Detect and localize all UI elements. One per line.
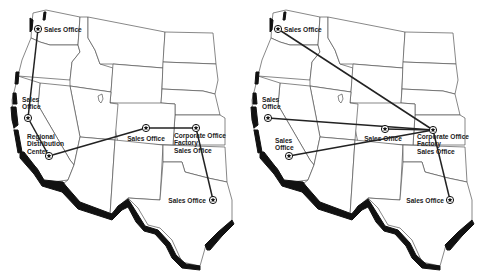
location-label: Office	[275, 144, 294, 151]
star-marker-icon	[34, 25, 41, 32]
location-label: Sales Office	[168, 197, 206, 204]
map-left-regional-distribution: Sales OfficeSalesOfficeRegionalDistribut…	[11, 10, 234, 270]
star-marker-icon	[264, 114, 271, 121]
location-label: Sales Office	[417, 148, 455, 155]
star-marker-icon	[285, 152, 292, 159]
location-label: Office	[262, 103, 281, 110]
location-label: Sales Office	[127, 135, 165, 142]
network-maps: Sales OfficeSalesOfficeRegionalDistribut…	[0, 0, 479, 274]
location-label: Sales Office	[284, 26, 322, 33]
star-marker-icon	[142, 124, 149, 131]
star-marker-icon	[381, 125, 388, 132]
star-marker-icon	[209, 196, 216, 203]
star-marker-icon	[24, 114, 31, 121]
location-label: Sales	[262, 96, 280, 103]
star-marker-icon	[446, 196, 453, 203]
star-marker-icon	[274, 25, 281, 32]
location-label: Sales Office	[406, 197, 444, 204]
star-marker-icon	[192, 124, 199, 131]
location-label: Center	[27, 148, 48, 155]
diagram-container: Sales OfficeSalesOfficeRegionalDistribut…	[0, 0, 479, 274]
map-right-direct-shipping: Sales OfficeSalesOfficeSalesOfficeSales …	[251, 10, 474, 270]
location-label: Office	[22, 103, 41, 110]
location-label: Sales Office	[44, 26, 82, 33]
location-label: Sales	[275, 137, 293, 144]
location-label: Sales	[22, 96, 40, 103]
location-label: Sales Office	[174, 147, 212, 154]
location-label: Distribution	[27, 140, 64, 147]
location-label: Sales Office	[364, 135, 402, 142]
route-kc-to-denver	[385, 129, 433, 130]
